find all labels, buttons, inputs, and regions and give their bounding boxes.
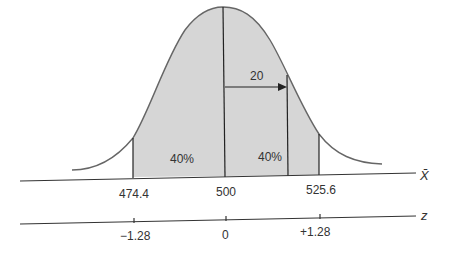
z-tick-label: +1.28 [300, 225, 331, 239]
xbar-tick-label: 500 [216, 185, 236, 199]
arrow-label: 20 [250, 69, 264, 83]
z-axis-name: z [420, 208, 428, 223]
z-axis [20, 216, 416, 224]
region-label-right: 40% [258, 150, 282, 164]
normal-distribution-diagram: 20 40% 40% X̄ 474.4 500 525.6 z −1.28 0 … [0, 0, 449, 260]
z-tick-label: −1.28 [120, 229, 151, 243]
xbar-tick-label: 474.4 [119, 187, 149, 201]
xbar-tick-label: 525.6 [306, 183, 336, 197]
shaded-region [133, 7, 319, 177]
xbar-axis-name: X̄ [419, 168, 430, 183]
z-tick-label: 0 [222, 228, 229, 242]
region-label-left: 40% [170, 152, 194, 166]
